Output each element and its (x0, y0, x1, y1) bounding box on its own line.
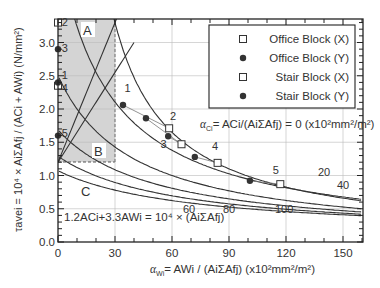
region-label-b: B (94, 144, 103, 159)
equation-label: 1.2ACi+3.3AWi = 10⁴ × (AiΣAfj) (64, 211, 224, 223)
svg-text:40: 40 (337, 179, 349, 191)
svg-text:5: 5 (62, 127, 68, 139)
svg-text:1.5: 1.5 (39, 136, 55, 148)
svg-text:2.0: 2.0 (39, 103, 55, 115)
region-label-c: C (81, 184, 90, 199)
svg-text:4: 4 (212, 140, 218, 152)
svg-text:150: 150 (333, 247, 352, 259)
svg-text:90: 90 (223, 247, 236, 259)
data-point (214, 159, 221, 166)
svg-text:1: 1 (125, 82, 131, 94)
svg-text:0.0: 0.0 (39, 236, 55, 248)
data-point (277, 181, 284, 188)
data-point (178, 141, 185, 148)
svg-text:20: 20 (318, 166, 330, 178)
svg-text:120: 120 (276, 247, 295, 259)
data-point (192, 154, 198, 160)
curve-family-label: αCi= ACi/(AiΣAfj) = 0 (x10²mm²/m²) (200, 118, 375, 132)
svg-text:3: 3 (62, 42, 68, 54)
svg-text:80: 80 (223, 203, 235, 215)
svg-text:4: 4 (62, 82, 68, 94)
svg-text:3.0: 3.0 (39, 37, 55, 49)
svg-text:Office Block (X): Office Block (X) (269, 33, 349, 45)
data-point (166, 125, 173, 132)
legend: Office Block (X)Office Block (Y)Stair Bl… (209, 25, 355, 108)
data-point (120, 102, 126, 108)
svg-text:5: 5 (273, 164, 279, 176)
data-point (247, 178, 253, 184)
svg-text:0.5: 0.5 (39, 203, 55, 215)
svg-text:3: 3 (161, 138, 167, 150)
svg-text:0: 0 (55, 247, 61, 259)
data-point (143, 115, 149, 121)
svg-text:1: 1 (62, 69, 68, 81)
chart: 03060901201500.00.51.01.52.02.53.0 A B C… (0, 0, 380, 288)
svg-text:Office Block (Y): Office Block (Y) (269, 52, 349, 64)
svg-text:1.0: 1.0 (39, 170, 55, 182)
svg-text:Stair Block (Y): Stair Block (Y) (276, 90, 350, 102)
x-axis-title: αWi= AWi / (AiΣAfj) (x10²mm²/m²) (150, 263, 315, 277)
svg-text:60: 60 (166, 247, 179, 259)
svg-text:30: 30 (109, 247, 122, 259)
svg-text:Stair Block (X): Stair Block (X) (276, 71, 350, 83)
svg-text:2.5: 2.5 (39, 70, 55, 82)
svg-text:2: 2 (62, 16, 68, 28)
y-axis-title: τavei = 10⁴ × AiΣAfj / (ACi + AWi) (N/mm… (12, 27, 24, 232)
svg-text:2: 2 (170, 110, 176, 122)
region-label-a: A (83, 23, 92, 38)
svg-text:100: 100 (275, 203, 293, 215)
